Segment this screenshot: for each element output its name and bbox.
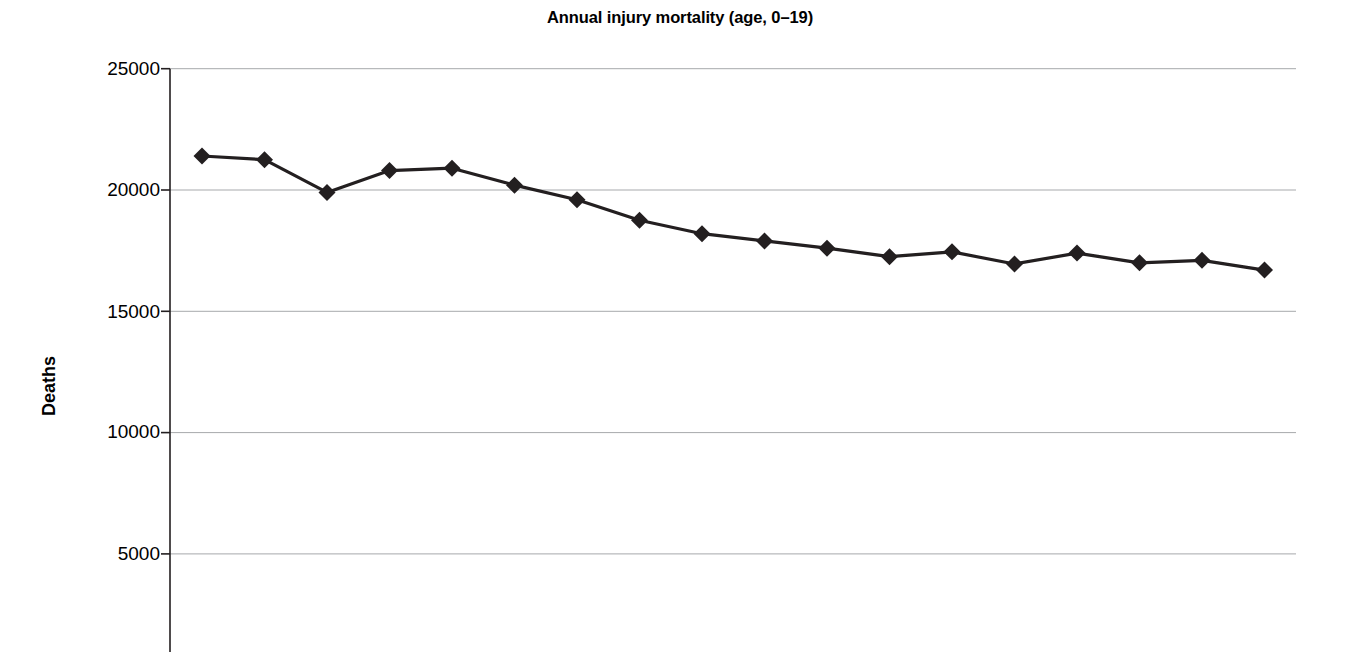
data-point-marker xyxy=(1194,252,1211,269)
data-series-line xyxy=(202,156,1265,270)
data-point-marker xyxy=(319,184,336,201)
chart-screenshot: Annual injury mortality (age, 0–19) Deat… xyxy=(0,0,1360,652)
data-point-marker xyxy=(819,240,836,257)
data-point-marker xyxy=(756,232,773,249)
data-point-marker xyxy=(1069,245,1086,262)
data-point-marker xyxy=(944,243,961,260)
data-point-marker xyxy=(569,191,586,208)
data-point-marker xyxy=(881,248,898,265)
data-point-marker xyxy=(194,148,211,165)
gridlines xyxy=(170,69,1296,554)
data-point-marker xyxy=(444,160,461,177)
data-point-marker xyxy=(1256,262,1273,279)
data-point-marker xyxy=(631,212,648,229)
data-point-marker xyxy=(381,162,398,179)
data-point-marker xyxy=(1131,254,1148,271)
line-chart-plot xyxy=(0,0,1360,652)
data-point-marker xyxy=(1006,255,1023,272)
data-point-marker xyxy=(256,151,273,168)
data-point-marker xyxy=(506,177,523,194)
y-axis-line-and-ticks xyxy=(161,69,170,652)
data-point-marker xyxy=(694,225,711,242)
